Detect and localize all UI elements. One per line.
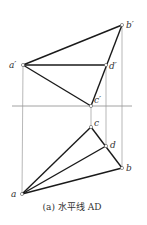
label-a-prime: a′	[9, 60, 16, 70]
label-b-prime: b′	[126, 20, 134, 30]
projector-a	[22, 65, 23, 194]
point-c	[89, 125, 92, 128]
figure-caption: (a) 水平线 AD	[43, 201, 102, 212]
point-a-prime	[21, 63, 24, 66]
point-b-prime	[120, 23, 123, 26]
edge-a-prime-b-prime	[23, 25, 122, 65]
label-c-prime: c′	[94, 95, 101, 105]
point-c-prime	[89, 104, 92, 107]
label-b: b	[126, 163, 132, 173]
point-d	[104, 144, 107, 147]
point-b	[120, 166, 123, 169]
edge-a-prime-c-prime	[23, 65, 91, 106]
point-d-prime	[104, 63, 107, 66]
label-c: c	[94, 118, 99, 128]
point-a	[20, 192, 23, 195]
label-d: d	[110, 140, 116, 150]
edge-a-b	[22, 168, 122, 194]
projection-diagram: b′ a′ d′ c′ c d b a (a) 水平线 AD	[0, 0, 147, 225]
label-a: a	[11, 189, 16, 199]
label-d-prime: d′	[109, 61, 117, 71]
